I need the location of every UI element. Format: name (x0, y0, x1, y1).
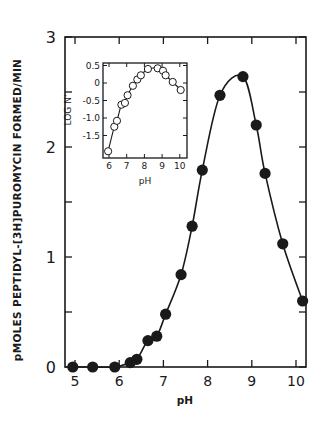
data-point (251, 119, 262, 130)
inset-data-point (144, 65, 151, 72)
data-point (67, 361, 78, 372)
data-point (87, 361, 98, 372)
inset-x-tick-label: 7 (124, 161, 130, 171)
data-point (237, 71, 248, 82)
inset-data-point (105, 148, 112, 155)
x-tick-label: 5 (71, 373, 80, 389)
inset-data-point (121, 99, 128, 106)
data-point (175, 269, 186, 280)
inset-x-tick-label: 6 (106, 161, 112, 171)
x-axis-label: pH (177, 394, 193, 406)
y-tick-label: 3 (46, 28, 56, 47)
data-point (277, 238, 288, 249)
x-tick-label: 10 (287, 373, 305, 389)
inset-plot: 6789100.50-0.5-1.0-1.5 (82, 61, 187, 172)
inset-data-point (124, 92, 131, 99)
data-point (259, 168, 270, 179)
ph-activity-chart: 56789100123 6789100.50-0.5-1.0-1.5 pH pH… (0, 0, 328, 429)
figure: 56789100123 6789100.50-0.5-1.0-1.5 pH pH… (0, 0, 328, 429)
data-point (160, 309, 171, 320)
inset-data-point (169, 78, 176, 85)
y-axis-label-container: pMOLES PEPTIDYL-[3H]PUROMYCIN FORMED/MIN (2, 44, 32, 376)
inset-x-axis-label: pH (139, 176, 151, 186)
inset-y-tick-label: -0.5 (82, 96, 100, 106)
inset-x-tick-label: 10 (174, 161, 186, 171)
y-axis-label: pMOLES PEPTIDYL-[3H]PUROMYCIN FORMED/MIN (11, 59, 23, 361)
inset-frame (103, 63, 187, 158)
inset-data-point (177, 86, 184, 93)
inset-x-tick-label: 8 (142, 161, 148, 171)
x-tick-label: 6 (115, 373, 124, 389)
data-point (297, 295, 308, 306)
inset-data-point (137, 72, 144, 79)
inset-y-axis-label: LOG N' (63, 95, 73, 126)
y-tick-label: 2 (46, 138, 56, 157)
data-point (214, 90, 225, 101)
x-tick-label: 7 (159, 373, 168, 389)
y-tick-label: 1 (46, 248, 56, 267)
data-point (109, 361, 120, 372)
y-tick-label: 0 (46, 358, 56, 377)
inset-y-tick-label: -1.5 (82, 131, 100, 141)
inset-data-point (162, 72, 169, 79)
inset-y-tick-label: 0 (94, 78, 100, 88)
x-tick-label: 9 (247, 373, 256, 389)
data-point (131, 354, 142, 365)
inset-y-tick-label: 0.5 (86, 61, 100, 71)
inset-y-tick-label: -1.0 (82, 113, 100, 123)
data-point (197, 165, 208, 176)
data-point (187, 221, 198, 232)
data-point (151, 331, 162, 342)
x-tick-label: 8 (203, 373, 212, 389)
inset-data-point (129, 82, 136, 89)
inset-data-point (113, 117, 120, 124)
inset-x-tick-label: 9 (159, 161, 165, 171)
